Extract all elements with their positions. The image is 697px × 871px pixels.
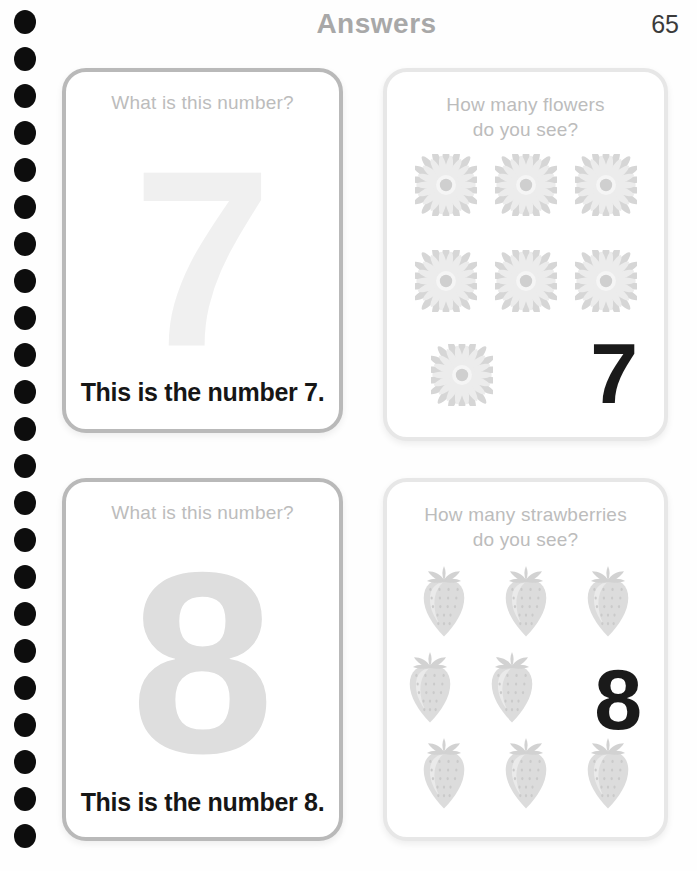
binding-hole	[14, 417, 36, 441]
strawberry-icon	[485, 738, 567, 814]
binding-hole	[14, 676, 36, 700]
binding-hole	[14, 824, 36, 848]
flower-icon	[486, 154, 566, 220]
question-text-line1: How many strawberries	[387, 502, 664, 527]
card-count-strawberries: How many strawberries do you see? 8	[383, 478, 668, 841]
flower-row-2	[387, 250, 664, 316]
strawberry-icon	[471, 652, 553, 728]
binding-hole	[14, 565, 36, 589]
flower-icon	[422, 344, 502, 410]
flower-icon	[406, 250, 486, 316]
question-text: What is this number?	[66, 90, 339, 115]
binding-hole	[14, 380, 36, 404]
worksheet-page: Answers 65 What is this number? 7 This i…	[0, 0, 697, 871]
binding-hole	[14, 602, 36, 626]
binding-hole	[14, 232, 36, 256]
trace-digit-7: 7	[66, 134, 339, 384]
binding-hole	[14, 713, 36, 737]
count-answer-8: 8	[594, 656, 642, 742]
strawberry-icon	[567, 566, 649, 642]
answer-text: This is the number 7.	[66, 378, 339, 407]
spiral-binding	[0, 0, 56, 871]
question-text-line1: How many flowers	[387, 92, 664, 117]
strawberry-icon	[485, 566, 567, 642]
binding-hole	[14, 787, 36, 811]
flower-icon	[566, 154, 646, 220]
card-number-7-trace: What is this number? 7 This is the numbe…	[62, 68, 343, 433]
strawberry-row-2	[387, 652, 554, 728]
binding-hole	[14, 343, 36, 367]
page-title: Answers	[56, 8, 697, 40]
binding-hole	[14, 639, 36, 663]
card-number-8-trace: What is this number? 8 This is the numbe…	[62, 478, 343, 841]
flower-icon	[486, 250, 566, 316]
binding-hole	[14, 750, 36, 774]
page-number: 65	[651, 10, 679, 39]
binding-hole	[14, 269, 36, 293]
binding-hole	[14, 454, 36, 478]
flower-icon	[566, 250, 646, 316]
question-text-line2: do you see?	[387, 527, 664, 552]
trace-digit-8: 8	[66, 534, 339, 792]
binding-hole	[14, 491, 36, 515]
flower-row-3	[387, 344, 536, 410]
strawberry-row-3	[387, 738, 664, 814]
strawberry-icon	[567, 738, 649, 814]
card-count-flowers: How many flowers do you see? 7	[383, 68, 668, 441]
binding-hole	[14, 158, 36, 182]
binding-hole	[14, 528, 36, 552]
flower-row-1	[387, 154, 664, 220]
strawberry-icon	[403, 738, 485, 814]
binding-hole	[14, 47, 36, 71]
strawberry-row-1	[387, 566, 664, 642]
binding-hole	[14, 195, 36, 219]
binding-hole	[14, 306, 36, 330]
binding-hole	[14, 121, 36, 145]
strawberry-icon	[389, 652, 471, 728]
question-text-line2: do you see?	[387, 117, 664, 142]
flower-icon	[406, 154, 486, 220]
page-header: Answers 65	[56, 0, 697, 56]
count-answer-7: 7	[590, 330, 638, 416]
answer-text: This is the number 8.	[66, 788, 339, 817]
binding-hole	[14, 10, 36, 34]
binding-hole	[14, 84, 36, 108]
strawberry-icon	[403, 566, 485, 642]
